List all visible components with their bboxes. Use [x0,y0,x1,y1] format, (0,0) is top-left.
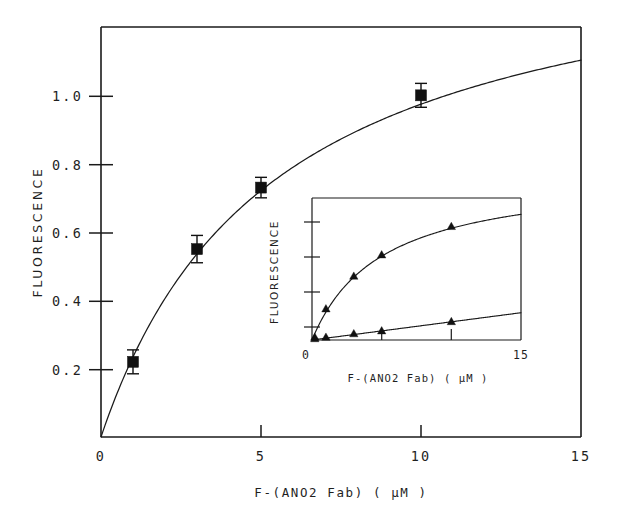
figure-canvas: 0.2 0.4 0.6 0.8 1.0 0 5 10 15 FLUORESCEN… [0,0,617,515]
main-fit-curve-path [101,60,581,437]
main-x-ticks [261,425,421,437]
main-y-tick-label-0.2: 0.2 [52,362,83,378]
main-y-tick-label-0.8: 0.8 [52,157,83,173]
figure-root: 0.2 0.4 0.6 0.8 1.0 0 5 10 15 FLUORESCEN… [0,0,617,515]
main-y-tick-labels: 0.2 0.4 0.6 0.8 1.0 [52,88,83,377]
main-y-axis-title: FLUORESCENCE [30,167,45,298]
inset-y-axis-title: FLUORESCENCE [268,220,280,324]
inset-curve-layer [312,214,521,340]
inset-x-tick-label-0: 0 [302,348,310,362]
inset-fit-curve-lower-fit [312,313,521,340]
main-x-tick-label-5: 5 [256,448,266,464]
inset-data-point [350,329,358,336]
main-x-tick-label-15: 15 [571,448,592,464]
inset-data-point [322,333,330,340]
inset-x-tick-label-15: 15 [513,348,529,362]
main-y-tick-label-1.0: 1.0 [52,88,83,104]
inset-x-axis-title: F-(ANO2 Fab) ( µM ) [347,372,488,384]
main-x-tick-label-10: 10 [411,448,432,464]
main-data-point [127,350,139,374]
main-x-tick-labels: 0 5 10 15 [96,448,591,464]
main-data-point [415,83,427,107]
main-curve-layer [101,60,581,437]
main-plot-frame [101,27,581,437]
inset-x-ticks [382,329,452,340]
main-y-tick-label-0.4: 0.4 [52,293,83,309]
main-x-tick-label-0: 0 [96,448,106,464]
inset-data-point [350,272,358,279]
inset-data-point [447,222,455,229]
main-x-axis-title: F-(ANO2 Fab) ( µM ) [254,485,427,500]
main-y-tick-label-0.6: 0.6 [52,225,83,241]
inset-fit-curve-upper-fit [312,214,521,340]
